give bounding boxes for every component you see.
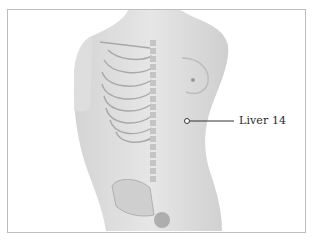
acupoint-marker — [185, 119, 190, 124]
acupoint-label: Liver 14 — [239, 114, 286, 127]
